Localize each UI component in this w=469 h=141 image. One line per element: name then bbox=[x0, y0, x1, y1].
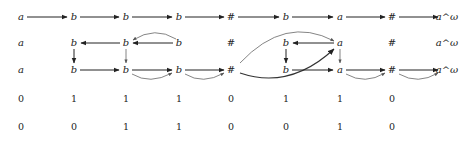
cell-label: # bbox=[388, 64, 396, 75]
cell-label: # bbox=[227, 11, 235, 22]
bit-value: 1 bbox=[71, 93, 77, 104]
cell-label: # bbox=[227, 64, 235, 75]
bit-value: 0 bbox=[228, 121, 234, 132]
vertical-edges bbox=[74, 49, 340, 63]
row5-bits: 0 0 1 1 0 0 1 0 bbox=[18, 121, 395, 132]
cell-label: a^ω bbox=[436, 64, 459, 75]
cell-label: a bbox=[18, 64, 24, 75]
row2-edges bbox=[81, 32, 334, 63]
cell-label: b bbox=[176, 37, 182, 48]
cell-label: b bbox=[71, 11, 77, 22]
bit-value: 0 bbox=[71, 121, 77, 132]
cell-label: b bbox=[123, 37, 129, 48]
bit-value: 0 bbox=[389, 93, 395, 104]
bit-value: 1 bbox=[337, 93, 343, 104]
bit-value: 0 bbox=[228, 93, 234, 104]
cell-label: # bbox=[388, 37, 396, 48]
cell-label: # bbox=[388, 11, 396, 22]
row4-bits: 0 1 1 1 0 1 1 0 bbox=[18, 93, 395, 104]
curved-edge bbox=[133, 33, 176, 40]
cell-label: b bbox=[176, 11, 182, 22]
bit-value: 0 bbox=[18, 93, 24, 104]
cell-label: b bbox=[283, 11, 289, 22]
bit-value: 1 bbox=[176, 121, 182, 132]
row3-edges bbox=[80, 49, 438, 79]
cell-label: # bbox=[227, 37, 235, 48]
run-diagram: a b b b # b a # a^ω a b b b # b a # a^ω … bbox=[0, 0, 469, 141]
cell-label: a bbox=[337, 11, 343, 22]
cell-label: a bbox=[18, 37, 24, 48]
cell-label: b bbox=[176, 64, 182, 75]
bit-value: 1 bbox=[337, 121, 343, 132]
bit-value: 1 bbox=[176, 93, 182, 104]
bit-value: 0 bbox=[18, 121, 24, 132]
curved-edge bbox=[132, 73, 172, 79]
cell-label: a^ω bbox=[436, 37, 459, 48]
cell-label: b bbox=[123, 11, 129, 22]
cell-label: a bbox=[337, 37, 343, 48]
cell-label: a bbox=[18, 11, 24, 22]
bit-value: 1 bbox=[283, 93, 289, 104]
cell-label: b bbox=[71, 64, 77, 75]
curved-edge bbox=[346, 73, 385, 79]
bit-value: 1 bbox=[123, 93, 129, 104]
cell-label: a^ω bbox=[436, 11, 459, 22]
bit-value: 0 bbox=[283, 121, 289, 132]
cell-label: b bbox=[283, 37, 289, 48]
cell-label: b bbox=[123, 64, 129, 75]
curved-edge bbox=[185, 73, 224, 79]
cell-label: a bbox=[337, 64, 343, 75]
bit-value: 1 bbox=[123, 121, 129, 132]
cell-label: b bbox=[71, 37, 77, 48]
bit-value: 0 bbox=[389, 121, 395, 132]
cell-label: b bbox=[283, 64, 289, 75]
curved-edge bbox=[399, 73, 438, 79]
